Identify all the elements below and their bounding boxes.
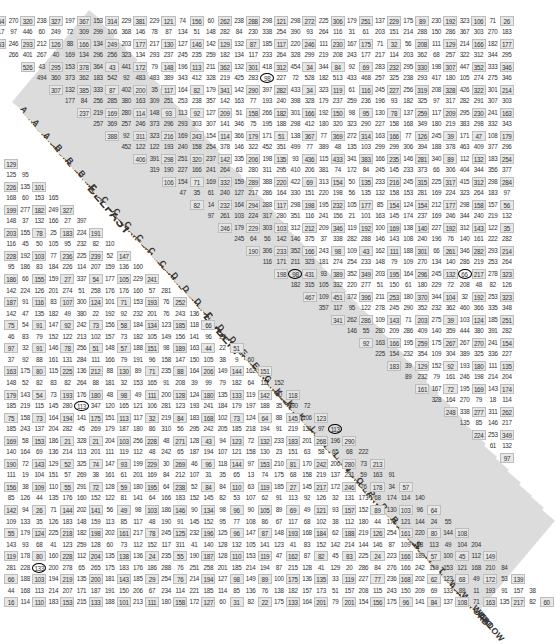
distance-cell: 168 bbox=[300, 528, 314, 538]
distance-cell: 148 bbox=[4, 378, 18, 388]
distance-cell: 126 bbox=[18, 493, 32, 503]
distance-cell: 228 bbox=[145, 436, 159, 446]
distance-cell: 219 bbox=[486, 211, 500, 221]
distance-cell: 117 bbox=[274, 39, 288, 49]
distance-cell: 111 bbox=[316, 39, 330, 49]
distance-cell: 201 bbox=[145, 309, 159, 319]
distance-cell: 111 bbox=[4, 470, 18, 480]
distance-cell: 189 bbox=[413, 551, 427, 561]
distance-cell: 277 bbox=[359, 280, 373, 290]
distance-cell: 157 bbox=[486, 200, 500, 210]
distance-row: 18791116831073001241017115319376252 bbox=[4, 297, 187, 308]
distance-cell: 65 bbox=[230, 470, 244, 480]
distance-cell: 96 bbox=[230, 505, 244, 515]
distance-cell: 207 bbox=[89, 262, 103, 272]
distance-cell: 237 bbox=[415, 211, 429, 221]
distance-cell: 182 bbox=[32, 205, 46, 215]
distance-cell: 349 bbox=[500, 430, 514, 440]
distance-cell: 294 bbox=[246, 200, 260, 210]
distance-cell: 163 bbox=[373, 211, 387, 221]
distance-cell: 48 bbox=[103, 390, 117, 400]
distance-cell: 216 bbox=[387, 177, 401, 187]
distance-cell: 119 bbox=[342, 574, 356, 584]
distance-cell: 27 bbox=[60, 274, 74, 284]
distance-cell: 97 bbox=[500, 188, 514, 198]
distance-cell: 390 bbox=[288, 27, 302, 37]
distance-cell: 494 bbox=[35, 73, 49, 83]
distance-cell: 117 bbox=[161, 85, 175, 95]
distance-cell: 243 bbox=[18, 424, 32, 434]
distance-cell: 93 bbox=[387, 96, 401, 106]
distance-cell: 147 bbox=[244, 528, 258, 538]
distance-cell: 180 bbox=[429, 119, 443, 129]
distance-cell: 83 bbox=[300, 540, 314, 550]
distance-cell: 89 bbox=[415, 16, 429, 26]
distance-row: 9518683184226114207159136160 bbox=[4, 262, 145, 273]
distance-cell: 319 bbox=[147, 165, 161, 175]
distance-cell: 72 bbox=[18, 459, 32, 469]
distance-cell: 156 bbox=[4, 482, 18, 492]
distance-cell: 206 bbox=[201, 366, 215, 376]
distance-cell: 83 bbox=[46, 297, 60, 307]
distance-cell: 113 bbox=[74, 447, 88, 457]
distance-cell: 23 bbox=[272, 447, 286, 457]
distance-row: 1091333512618314815911385117481909114515… bbox=[4, 516, 455, 527]
distance-cell: 286 bbox=[260, 188, 274, 198]
distance-cell: 249 bbox=[105, 39, 119, 49]
distance-cell: 200 bbox=[133, 85, 147, 95]
distance-cell: 169 bbox=[105, 108, 119, 118]
distance-cell: 352 bbox=[345, 269, 359, 279]
distance-cell: 241 bbox=[317, 211, 331, 221]
distance-cell: 232 bbox=[387, 62, 401, 72]
distance-cell: 77 bbox=[401, 131, 415, 141]
distance-cell: 40 bbox=[49, 50, 63, 60]
distance-cell: 343 bbox=[176, 73, 190, 83]
distance-cell: 323 bbox=[457, 16, 471, 26]
distance-cell: 220 bbox=[345, 280, 359, 290]
distance-cell: 317 bbox=[260, 211, 274, 221]
distance-cell: 117 bbox=[131, 413, 145, 423]
distance-cell: 131 bbox=[300, 424, 314, 434]
distance-cell: 169 bbox=[429, 211, 443, 221]
distance-cell: 72 bbox=[443, 384, 457, 394]
distance-cell: 192 bbox=[443, 16, 457, 26]
distance-cell: 323 bbox=[119, 50, 133, 60]
distance-cell: 196 bbox=[201, 528, 215, 538]
distance-cell: 203 bbox=[4, 228, 18, 238]
distance-cell: 61 bbox=[401, 280, 415, 290]
distance-cell: 96 bbox=[201, 459, 215, 469]
distance-cell: 109 bbox=[373, 315, 387, 325]
distance-cell: 196 bbox=[373, 96, 387, 106]
distance-cell: 105 bbox=[345, 200, 359, 210]
distance-cell: 148 bbox=[103, 343, 117, 353]
distance-cell: 214 bbox=[457, 39, 471, 49]
distance-cell: 304 bbox=[443, 349, 457, 359]
distance-cell: 126 bbox=[314, 493, 328, 503]
distance-cell: 180 bbox=[401, 292, 415, 302]
distance-cell: 209 bbox=[413, 586, 427, 596]
distance-cell: 71 bbox=[401, 315, 415, 325]
distance-cell: 141 bbox=[218, 119, 232, 129]
distance-cell: 398 bbox=[288, 96, 302, 106]
distance-cell: 151 bbox=[103, 413, 117, 423]
distance-cell: 198 bbox=[89, 528, 103, 538]
distance-cell: 140 bbox=[4, 447, 18, 457]
distance-cell: 173 bbox=[314, 586, 328, 596]
distance-cell: 185 bbox=[4, 401, 18, 411]
distance-cell: 245 bbox=[401, 177, 415, 187]
distance-cell: 143 bbox=[387, 315, 401, 325]
distance-cell: 32 bbox=[458, 292, 472, 302]
distance-cell: 323 bbox=[302, 257, 316, 267]
distance-cell: 153 bbox=[131, 378, 145, 388]
distance-cell: 193 bbox=[187, 401, 201, 411]
distance-cell: 146 bbox=[232, 142, 246, 152]
distance-cell: 288 bbox=[359, 234, 373, 244]
distance-cell: 158 bbox=[159, 355, 173, 365]
distance-cell: 196 bbox=[429, 234, 443, 244]
distance-cell: 192 bbox=[103, 309, 117, 319]
distance-cell: 67 bbox=[272, 517, 286, 527]
distance-cell: 175 bbox=[359, 39, 373, 49]
distance-cell: 31 bbox=[345, 27, 359, 37]
distance-row: 1791435473193176180489849111200128124180… bbox=[4, 389, 300, 400]
distance-cell: 117 bbox=[131, 517, 145, 527]
